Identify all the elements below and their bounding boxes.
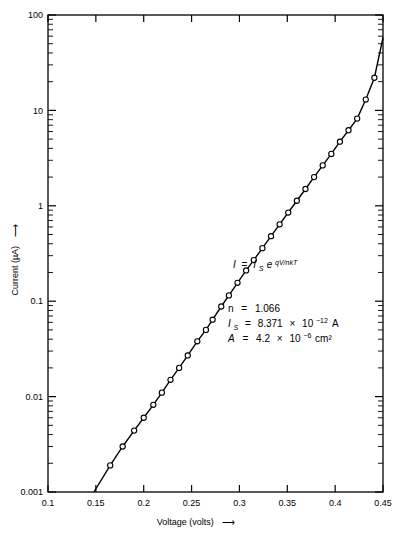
- parameter-symbol-sub-1: S: [234, 324, 239, 331]
- y-axis-title-text: Current (µA): [10, 246, 20, 296]
- parameter-row-0: n = 1.066: [228, 303, 280, 314]
- equation-current-symbol: I: [233, 259, 236, 270]
- parameter-mantissa-1: 8.371: [258, 318, 283, 329]
- data-point-marker: [177, 365, 182, 370]
- data-point-marker: [337, 139, 342, 144]
- x-tick-label: 0.3: [233, 498, 246, 508]
- x-tick-label: 0.15: [87, 498, 105, 508]
- y-axis-title: Current (µA) ⟶: [10, 224, 20, 295]
- data-point-marker: [346, 128, 351, 133]
- x-axis-title-arrow: ⟶: [222, 517, 235, 527]
- y-tick-label: 0.1: [30, 296, 43, 306]
- x-tick-label: 0.25: [183, 498, 201, 508]
- y-tick-label: 0.001: [20, 487, 43, 497]
- data-point-marker: [372, 75, 377, 80]
- data-point-marker: [185, 353, 190, 358]
- y-tick-label: 10: [33, 106, 43, 116]
- svg-text:Current (µA) ⟶: Current (µA) ⟶: [10, 224, 20, 295]
- y-tick-label: 0.01: [25, 392, 43, 402]
- x-axis-title-text: Voltage (volts): [157, 517, 214, 527]
- parameter-exponent-2: −6: [303, 332, 311, 339]
- svg-text:Voltage (volts) ⟶: Voltage (volts) ⟶: [157, 517, 236, 527]
- y-tick-label: 1: [38, 201, 43, 211]
- data-point-marker: [168, 377, 173, 382]
- data-point-marker: [120, 444, 125, 449]
- data-point-marker: [132, 428, 137, 433]
- x-tick-label: 0.4: [329, 498, 342, 508]
- data-point-marker: [303, 186, 308, 191]
- parameter-equals-1: =: [245, 318, 251, 329]
- data-point-marker: [277, 222, 282, 227]
- parameter-times-1: ×: [289, 318, 295, 329]
- parameter-symbol-2: A: [227, 333, 235, 344]
- data-point-marker: [311, 174, 316, 179]
- x-tick-label: 0.2: [137, 498, 150, 508]
- parameter-base-2: 10: [289, 333, 301, 344]
- parameter-times-2: ×: [277, 333, 283, 344]
- data-point-marker: [320, 163, 325, 168]
- data-point-marker: [210, 317, 215, 322]
- data-point-marker: [363, 97, 368, 102]
- equation-exponent: qV/nkT: [275, 259, 298, 267]
- x-axis-title: Voltage (volts) ⟶: [157, 517, 236, 527]
- equation-e-symbol: e: [267, 259, 273, 270]
- data-point-marker: [141, 415, 146, 420]
- data-point-marker: [151, 402, 156, 407]
- parameter-mantissa-2: 4.2: [256, 333, 270, 344]
- chart-figure: 0.0010.010.1110100 0.10.150.20.250.30.35…: [0, 0, 400, 541]
- parameter-equals-0: =: [241, 303, 247, 314]
- y-axis-title-arrow: ⟶: [10, 224, 20, 237]
- data-point-marker: [294, 198, 299, 203]
- parameter-value-0: 1.066: [255, 303, 280, 314]
- x-tick-label: 0.35: [279, 498, 297, 508]
- parameter-symbol-1: I: [228, 318, 231, 329]
- data-point-marker: [260, 246, 265, 251]
- data-point-marker: [268, 234, 273, 239]
- data-point-marker: [235, 280, 240, 285]
- parameter-equals-2: =: [242, 333, 248, 344]
- parameter-base-1: 10: [302, 318, 314, 329]
- equation-is-symbol: I: [253, 259, 256, 270]
- data-point-marker: [219, 304, 224, 309]
- data-point-marker: [286, 210, 291, 215]
- equation-equals: =: [242, 259, 248, 270]
- parameter-symbol-0: n: [228, 303, 234, 314]
- parameter-exponent-1: −12: [316, 317, 328, 324]
- data-point-marker: [195, 339, 200, 344]
- chart-background: [0, 0, 400, 541]
- equation-is-subscript: S: [259, 265, 264, 272]
- y-tick-label: 100: [28, 10, 43, 20]
- parameter-unit-1: A: [332, 318, 339, 329]
- data-point-marker: [159, 390, 164, 395]
- semilog-iv-plot: 0.0010.010.1110100 0.10.150.20.250.30.35…: [0, 0, 400, 541]
- x-tick-label: 0.1: [42, 498, 55, 508]
- data-point-marker: [226, 293, 231, 298]
- data-point-marker: [108, 463, 113, 468]
- x-tick-label: 0.45: [374, 498, 392, 508]
- parameter-unit-2: cm²: [315, 333, 332, 344]
- data-point-marker: [329, 151, 334, 156]
- data-point-marker: [203, 327, 208, 332]
- data-point-marker: [355, 116, 360, 121]
